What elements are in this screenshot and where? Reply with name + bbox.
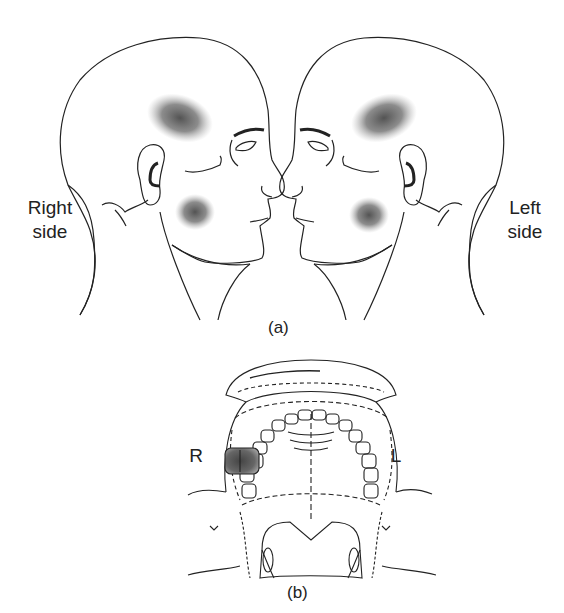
left-side-label-line2: side [495, 220, 555, 244]
highlighted-tooth [225, 448, 259, 474]
right-side-label: Right side [20, 196, 80, 244]
right-side-label-line1: Right [20, 196, 80, 220]
pain-region-temporal-left [344, 85, 424, 151]
left-side-label: Left side [495, 196, 555, 244]
teeth-upper-arch [240, 410, 378, 498]
panel-b-caption: (b) [287, 583, 308, 603]
oral-right-label: R [186, 444, 206, 468]
illustration-svg [0, 0, 564, 613]
right-side-head [60, 37, 284, 320]
panel-a-caption: (a) [268, 318, 289, 338]
pain-region-masseter-left [349, 197, 389, 233]
left-side-label-line1: Left [495, 196, 555, 220]
oral-left-label: L [386, 444, 406, 468]
right-side-label-line2: side [20, 220, 80, 244]
left-side-head [280, 37, 504, 320]
figure-referred-pain-diagram: Right side Left side (a) R L (b) [0, 0, 564, 613]
oral-cavity-diagram [188, 360, 436, 578]
pain-region-temporal-right [140, 85, 220, 151]
pain-region-masseter-right [175, 194, 215, 230]
